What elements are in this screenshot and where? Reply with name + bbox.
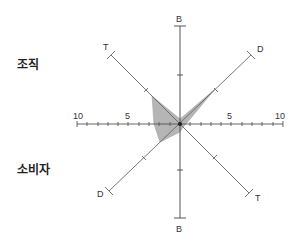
center-point (178, 122, 182, 126)
axis-label-d-top: D (257, 44, 264, 54)
radar-chart: B B D D T T 10 5 5 10 (0, 0, 298, 246)
data-polygon (152, 89, 215, 142)
axis-label-b-bottom: B (176, 224, 182, 234)
scale-label-left-10: 10 (73, 111, 83, 121)
scale-label-left-5: 5 (125, 111, 130, 121)
axis-label-t-top: T (103, 42, 109, 52)
axis-label-t-bottom: T (255, 193, 261, 203)
axis-label-b-top: B (176, 14, 182, 24)
axis-label-d-bottom: D (97, 189, 104, 199)
scale-label-right-10: 10 (275, 111, 285, 121)
scale-label-right-5: 5 (227, 111, 232, 121)
